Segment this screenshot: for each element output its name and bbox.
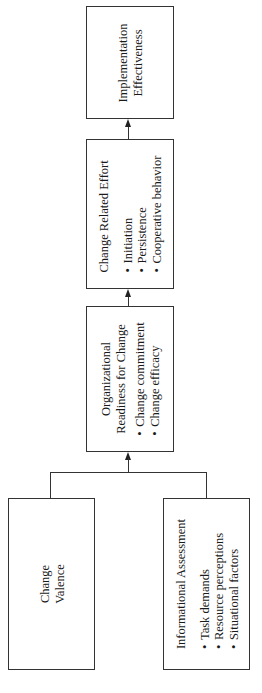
bullet-item: Situational factors xyxy=(226,519,241,649)
edge-effort-to-implementation xyxy=(128,125,129,139)
node-line: Valence xyxy=(52,564,67,604)
bullet-list: Task demands Resource perceptions Situat… xyxy=(197,519,241,649)
edge-informational-to-readiness xyxy=(206,472,207,498)
node-change-valence: Change Valence xyxy=(8,498,95,670)
node-title: Informational Assessment xyxy=(173,519,188,649)
bullet-item: Change commitment xyxy=(133,322,148,436)
node-informational-label: Informational Assessment Task demands Re… xyxy=(173,519,240,649)
node-readiness-label: Organizational Readiness for Change Chan… xyxy=(99,322,162,436)
node-implementation-label: Implementation Effectiveness xyxy=(116,23,145,102)
bullet-item: Resource perceptions xyxy=(211,519,226,649)
node-effort-label: Change Related Effort Initiation Persist… xyxy=(97,156,164,273)
bullet-item: Change efficacy xyxy=(147,322,162,436)
arrowhead-icon xyxy=(125,289,131,297)
node-line: Effectiveness xyxy=(130,23,145,102)
node-line: Organizational xyxy=(99,322,114,436)
node-valence-label: Change Valence xyxy=(37,564,66,604)
node-line: Change xyxy=(37,564,52,604)
edge-horizontal-connector xyxy=(50,472,207,473)
node-change-related-effort: Change Related Effort Initiation Persist… xyxy=(86,139,174,289)
node-title: Change Related Effort xyxy=(97,156,112,273)
node-line: Implementation xyxy=(116,23,131,102)
bullet-list: Initiation Persistence Cooperative behav… xyxy=(120,156,164,273)
bullet-item: Task demands xyxy=(197,519,212,649)
bullet-item: Initiation xyxy=(120,156,135,273)
bullet-list: Change commitment Change efficacy xyxy=(133,322,162,436)
node-line: Readiness for Change xyxy=(113,322,128,436)
arrowhead-icon xyxy=(125,119,131,127)
node-implementation-effectiveness: Implementation Effectiveness xyxy=(86,6,174,119)
node-informational-assessment: Informational Assessment Task demands Re… xyxy=(163,498,250,670)
bullet-item: Cooperative behavior xyxy=(149,156,164,273)
node-organizational-readiness: Organizational Readiness for Change Chan… xyxy=(86,306,174,452)
edge-trunk xyxy=(128,458,129,473)
bullet-item: Persistence xyxy=(135,156,150,273)
edge-valence-to-readiness xyxy=(50,472,51,498)
